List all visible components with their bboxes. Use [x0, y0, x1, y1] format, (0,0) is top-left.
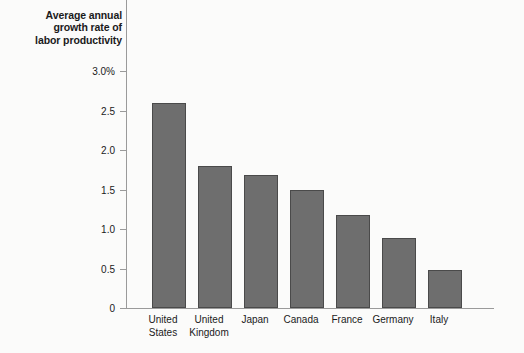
y-axis-tick-label: 0.5: [15, 263, 115, 274]
y-axis-tick: [120, 229, 126, 230]
bar: [198, 166, 232, 308]
y-axis-tick: [120, 71, 126, 72]
chart-title: Average annual growth rate of labor prod…: [12, 9, 122, 46]
x-axis-category-label: Italy: [402, 314, 476, 327]
bar: [290, 190, 324, 309]
bar: [428, 270, 462, 308]
y-axis-tick-label: 1.5: [15, 184, 115, 195]
bar: [336, 215, 370, 308]
y-axis-tick: [120, 111, 126, 112]
y-axis-tick-label: 1.0: [15, 224, 115, 235]
bar: [244, 175, 278, 308]
x-axis-category-label-line: Kingdom: [172, 327, 246, 340]
y-axis-tick: [120, 190, 126, 191]
chart-title-line-2: growth rate of: [12, 21, 122, 33]
y-axis-tick: [120, 269, 126, 270]
bar-chart: Average annual growth rate of labor prod…: [0, 0, 524, 353]
chart-title-line-3: labor productivity: [12, 34, 122, 46]
plot-area: [127, 0, 494, 309]
y-axis-tick-label: 3.0%: [15, 66, 115, 77]
y-axis-tick-label: 2.5: [15, 105, 115, 116]
bar: [382, 238, 416, 308]
y-axis-tick-label: 2.0: [15, 145, 115, 156]
y-axis-tick: [120, 150, 126, 151]
y-axis-tick: [120, 308, 126, 309]
y-axis-tick-label: 0: [15, 303, 115, 314]
chart-title-line-1: Average annual: [12, 9, 122, 21]
bar: [152, 103, 186, 308]
x-axis-category-label-line: Italy: [402, 314, 476, 327]
